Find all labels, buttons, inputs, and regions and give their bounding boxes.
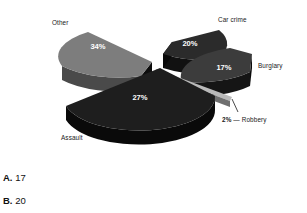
pie-label-burglary: Burglary: [258, 62, 283, 69]
answer-letter-b: B.: [3, 195, 13, 206]
answer-letter-a: A.: [3, 172, 13, 183]
robbery-dash: —: [233, 116, 240, 123]
pie-value-robbery: 2%: [222, 116, 231, 123]
robbery-leader-line: [232, 99, 238, 112]
answer-option-b[interactable]: B. 20: [3, 195, 26, 206]
chart-title-cropped: Percentages of Recorded Crime by Type: [0, 0, 307, 2]
pie-value-assault: 27%: [132, 93, 147, 102]
robbery-name: Robbery: [242, 116, 267, 123]
pie-chart: 34% 20% 17%: [0, 6, 307, 154]
pie-value-car-crime: 20%: [182, 39, 197, 48]
answer-value-a: 17: [15, 172, 26, 183]
pie-label-assault: Assault: [61, 134, 83, 141]
pie-value-other: 34%: [90, 42, 105, 51]
pie-value-burglary: 17%: [216, 63, 231, 72]
question-page: Percentages of Recorded Crime by Type 34…: [0, 0, 307, 213]
answer-option-a[interactable]: A. 17: [3, 172, 26, 183]
pie-label-other: Other: [52, 19, 68, 26]
pie-label-robbery: 2% — Robbery: [222, 116, 267, 123]
answer-value-b: 20: [15, 195, 26, 206]
pie-chart-svg: 34% 20% 17%: [0, 6, 307, 154]
pie-label-car-crime: Car crime: [218, 16, 247, 23]
